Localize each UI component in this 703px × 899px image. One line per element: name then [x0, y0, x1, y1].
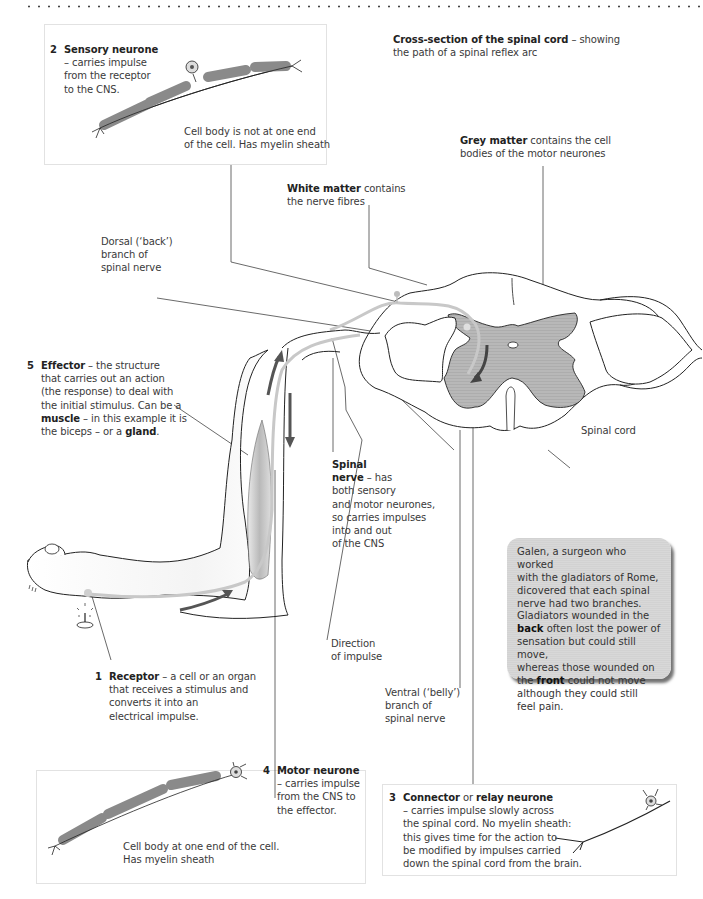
motor-neurone-label: 4Motor neurone – carries impulse from th…	[263, 764, 360, 817]
motor-neurone-note: Cell body at one end of the cell. Has my…	[123, 840, 279, 866]
spinal-nerve-label: Spinal nerve – has both sensory and moto…	[332, 458, 435, 550]
white-matter-label: White matter contains the nerve fibres	[287, 182, 405, 208]
ventral-branch-label: Ventral (‘belly’) branch of spinal nerve	[385, 686, 460, 726]
direction-of-impulse-label: Direction of impulse	[331, 637, 382, 663]
effector-label: 5Effector – the structure that carries o…	[27, 359, 187, 438]
sensory-neurone-label: 2Sensory neurone – carries impulse from …	[50, 43, 158, 96]
diagram-title: Cross-section of the spinal cord – showi…	[393, 33, 620, 59]
receptor-label: 1Receptor – a cell or an organ that rece…	[95, 670, 256, 723]
spinal-cord-cross-section	[330, 273, 702, 431]
dorsal-branch-label: Dorsal (‘back’) branch of spinal nerve	[101, 235, 173, 275]
sensory-name: Sensory neurone	[64, 44, 158, 55]
spinal-cord-label: Spinal cord	[581, 424, 636, 437]
sensory-number: 2	[50, 43, 64, 56]
relay-neurone-label: 3Connector or relay neurone – carries im…	[389, 791, 582, 870]
sensory-neurone-note: Cell body is not at one end of the cell.…	[184, 125, 330, 151]
grey-matter-label: Grey matter contains the cell bodies of …	[460, 134, 611, 160]
galen-fact-box: Galen, a surgeon who worked with the gla…	[507, 538, 671, 679]
